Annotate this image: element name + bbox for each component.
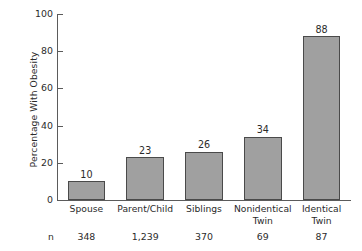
sample-size-value: 370 <box>175 232 234 241</box>
plot-area: 1023263488 <box>57 14 351 200</box>
sample-size-value: 87 <box>292 232 351 241</box>
y-axis-title: Percentage With Obesity <box>28 15 39 205</box>
y-axis-tick-label: 40 <box>13 121 53 130</box>
sample-size-value: 348 <box>57 232 116 241</box>
sample-size-row: n 3481,2393706987 <box>57 232 351 248</box>
bar <box>244 137 282 200</box>
y-axis-tick-label: 60 <box>13 83 53 92</box>
y-axis-tick-label: 100 <box>13 9 53 18</box>
sample-size-value: 69 <box>233 232 292 241</box>
bar-value-label: 23 <box>116 146 175 156</box>
y-axis-tick-label: 80 <box>13 46 53 55</box>
bar-group: 23 <box>116 14 175 200</box>
bar-value-label: 26 <box>175 140 234 150</box>
bar-group: 10 <box>57 14 116 200</box>
x-axis-line <box>57 200 351 201</box>
sample-size-key: n <box>48 232 54 241</box>
bar-group: 26 <box>175 14 234 200</box>
bar-group: 34 <box>233 14 292 200</box>
bar-value-label: 34 <box>233 125 292 135</box>
x-axis-category-label: IdenticalTwin <box>282 203 361 226</box>
x-axis-category-label-line: Identical <box>282 203 361 215</box>
bar-value-label: 10 <box>57 170 116 180</box>
y-axis-tick <box>57 200 63 201</box>
bar-chart-figure: Percentage With Obesity 020406080100 102… <box>0 0 362 251</box>
x-axis-category-label-line: Twin <box>282 215 361 227</box>
bar <box>185 152 223 200</box>
sample-size-value: 1,239 <box>116 232 175 241</box>
bar-group: 88 <box>292 14 351 200</box>
x-axis-category-labels: SpouseParent/ChildSiblingsNonidenticalTw… <box>57 203 351 233</box>
bar <box>68 181 106 200</box>
bar <box>126 157 164 200</box>
bar-value-label: 88 <box>292 25 351 35</box>
y-axis-tick-label: 20 <box>13 158 53 167</box>
bar <box>303 36 341 200</box>
